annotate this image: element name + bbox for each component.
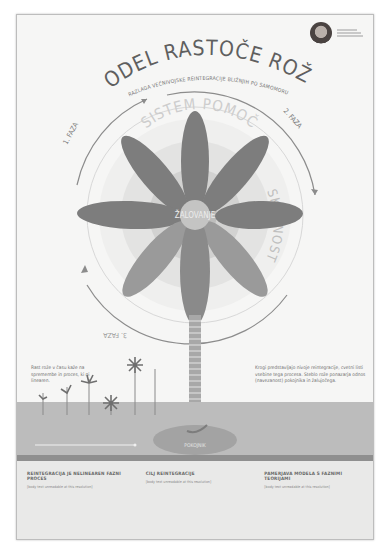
phase-label-3: 3. FAZA	[102, 331, 127, 339]
phase-label-2: 2. FAZA	[282, 107, 304, 131]
column-body: [body text unreadable at this resolution…	[27, 485, 128, 490]
column-body: [body text unreadable at this resolution…	[146, 480, 247, 485]
note-right: Krogi predstavljajo nivoje reintegracije…	[255, 365, 367, 385]
arrow-icon	[81, 265, 88, 273]
phase-label-1: 1. FAZA	[62, 120, 81, 145]
ground	[17, 402, 373, 459]
column-2: CILJ REINTEGRACIJE [body text unreadable…	[136, 461, 255, 539]
column-heading: PAMERJAVA MODELA S FAZNIMI TEORIJAMI	[264, 471, 365, 481]
poster-subtitle: RAZLAGA VEČNIVOJSKE REINTEGRACIJE BLIŽNJ…	[127, 75, 289, 97]
note-left: Rast rože v času kaže na spremembe in pr…	[31, 365, 105, 385]
stem	[189, 315, 201, 415]
column-heading: REINTEGRACIJA JE NELINEAREN FAZNI PROCES	[27, 471, 128, 481]
center-label: ŽALOVANJE	[175, 209, 216, 220]
info-columns: REINTEGRACIJA JE NELINEAREN FAZNI PROCES…	[17, 461, 373, 539]
arrow-icon	[311, 189, 318, 195]
poster: MODEL RASTOČE ROŽE RAZLAGA VEČNIVOJSKE R…	[16, 14, 374, 540]
column-body: [body text unreadable at this resolution…	[264, 485, 365, 490]
column-1: REINTEGRACIJA JE NELINEAREN FAZNI PROCES…	[17, 461, 136, 539]
column-3: PAMERJAVA MODELA S FAZNIMI TEORIJAMI [bo…	[254, 461, 373, 539]
petal-bottom	[180, 217, 210, 325]
column-heading: CILJ REINTEGRACIJE	[146, 471, 247, 476]
